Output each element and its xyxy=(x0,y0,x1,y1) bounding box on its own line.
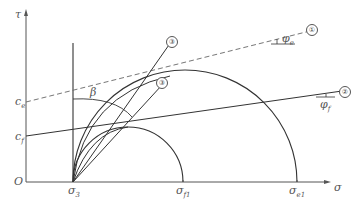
beta-angle-arc xyxy=(73,99,132,117)
marker-1: ① xyxy=(306,24,318,36)
small-mohr-circle xyxy=(73,127,183,182)
origin-label: O xyxy=(14,176,23,187)
marker-3a: ③ xyxy=(166,36,178,48)
failure-arc-lower xyxy=(73,127,128,182)
phi-e-label: φe xyxy=(282,33,294,47)
line-3a xyxy=(73,42,171,182)
sigma-axis-label: σ xyxy=(334,182,342,193)
c-f-label: cf xyxy=(15,131,24,145)
phi-f-label: φf xyxy=(320,99,330,113)
large-mohr-circle xyxy=(73,70,297,182)
sigma-f1-label: σf1 xyxy=(176,185,191,199)
marker-2: ② xyxy=(339,86,351,98)
tau-axis-arrow-icon xyxy=(24,9,28,16)
sigma-e1-label: σe1 xyxy=(289,185,305,199)
sigma-axis-arrow-icon xyxy=(324,180,331,184)
tau-axis-label: τ xyxy=(15,9,21,20)
marker-3b: ③ xyxy=(156,77,168,89)
c-e-label: ce xyxy=(15,96,25,110)
sigma3-label: σ3 xyxy=(68,185,80,199)
beta-label: β xyxy=(90,87,96,98)
